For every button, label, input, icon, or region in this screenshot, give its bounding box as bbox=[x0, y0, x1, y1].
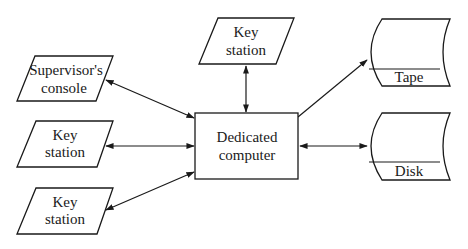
supervisor-label-line1: Supervisor's bbox=[29, 62, 103, 78]
disk-label: Disk bbox=[395, 163, 424, 179]
key-top-label-line2: station bbox=[226, 42, 266, 58]
computer-label-line2: computer bbox=[219, 147, 276, 163]
key-station-top-node: Key station bbox=[199, 18, 294, 64]
dedicated-computer-node: Dedicated computer bbox=[195, 113, 298, 179]
key-mid-label-line2: station bbox=[45, 144, 85, 160]
computer-label-line1: Dedicated bbox=[217, 129, 278, 145]
tape-storage-node: Tape bbox=[369, 19, 450, 86]
key-bottom-label-line1: Key bbox=[53, 194, 78, 210]
key-top-label-line1: Key bbox=[234, 24, 259, 40]
key-mid-label-line1: Key bbox=[53, 127, 78, 143]
data-entry-system-diagram: Supervisor's console Key station Key sta… bbox=[0, 0, 468, 249]
key-station-bottom-node: Key station bbox=[17, 188, 113, 234]
key-station-mid-node: Key station bbox=[17, 121, 113, 167]
edge-keybottom-computer bbox=[106, 172, 194, 210]
tape-label: Tape bbox=[395, 69, 424, 85]
supervisor-label-line2: console bbox=[41, 80, 87, 96]
key-bottom-label-line2: station bbox=[45, 211, 85, 227]
disk-storage-node: Disk bbox=[369, 113, 450, 180]
edge-supervisor-computer bbox=[106, 80, 194, 118]
supervisor-console-node: Supervisor's console bbox=[17, 56, 113, 101]
edge-computer-tape bbox=[298, 60, 367, 117]
